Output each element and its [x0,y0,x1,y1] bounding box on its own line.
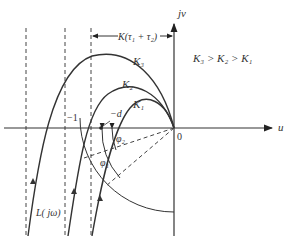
curve-label-k2: K₂ [121,78,133,90]
minus-d-leader [103,121,110,126]
direction-arrow-k1 [97,195,103,201]
direction-arrow-k3 [30,178,36,184]
origin-label: 0 [177,131,182,142]
nyquist-diagram: jv u 0 −1 −d K(τ₁ + τ₂) K₃ > K₂ > K₁ K₃ … [0,0,300,246]
u-axis-label: u [278,121,284,133]
minus-one-label: −1 [67,112,78,123]
l-jw-label: L( jω) [35,207,61,219]
curve-label-k1: K₁ [132,98,144,110]
bracket-label: K(τ₁ + τ₂) [117,31,158,43]
curve-label-k3: K₃ [132,55,144,67]
ray-phi2 [84,128,174,158]
phi2-label: φ₂ [116,133,126,144]
unit-circle-arc [80,118,174,212]
minus-d-point [99,126,103,130]
jv-axis-label: jv [176,7,186,19]
relation-label: K₃ > K₂ > K₁ [192,52,253,64]
direction-arrow-k2 [71,188,77,194]
phi1-label: φ₁ [100,157,109,168]
minus-d-label: −d [110,108,123,119]
